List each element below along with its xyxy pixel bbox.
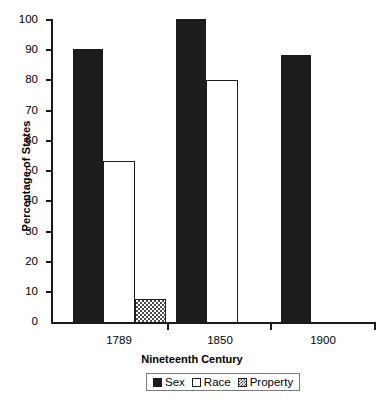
y-tick-40 [46,200,51,202]
y-tick-label-50: 50 [8,165,38,177]
y-tick-20 [46,261,51,263]
x-tick-label-1900: 1900 [283,334,363,346]
bar-race-1789 [103,161,135,323]
x-tick-end [374,324,376,330]
x-tick-1850-1900 [270,324,272,330]
legend-swatch-property-icon [238,378,247,387]
y-tick-30 [46,231,51,233]
bar-race-1850 [206,80,238,323]
y-tick-60 [46,140,51,142]
y-tick-label-100: 100 [8,14,38,26]
y-tick-80 [46,79,51,81]
y-tick-50 [46,170,51,172]
chart-legend: Sex Race Property [146,373,300,391]
y-tick-label-30: 30 [8,226,38,238]
legend-label-sex: Sex [165,376,185,388]
x-tick-1789-1850 [167,324,169,330]
y-tick-100 [46,19,51,21]
legend-swatch-race-icon [192,378,201,387]
y-tick-label-70: 70 [8,105,38,117]
y-tick-10 [46,291,51,293]
legend-label-race: Race [204,376,231,388]
y-tick-label-60: 60 [8,135,38,147]
x-axis-title: Nineteenth Century [0,353,384,365]
x-tick-label-1789: 1789 [79,334,159,346]
legend-item-race: Race [192,376,231,388]
y-tick-90 [46,49,51,51]
legend-swatch-sex-icon [153,378,162,387]
y-tick-label-20: 20 [8,256,38,268]
x-tick-label-1850: 1850 [180,334,260,346]
y-tick-label-90: 90 [8,44,38,56]
x-axis-line [51,322,376,324]
y-axis-line [51,19,53,324]
legend-label-property: Property [250,376,293,388]
legend-item-sex: Sex [153,376,185,388]
bar-sex-1789 [73,49,103,323]
y-tick-label-10: 10 [8,286,38,298]
bar-sex-1850 [176,19,206,323]
bar-sex-1900 [281,55,311,323]
y-tick-label-40: 40 [8,195,38,207]
y-tick-label-0: 0 [8,316,38,328]
bar-property-1789 [135,299,166,323]
y-tick-70 [46,110,51,112]
bar-chart: Percentage of States 100 90 80 70 60 50 … [0,0,384,403]
legend-item-property: Property [238,376,293,388]
y-tick-label-80: 80 [8,74,38,86]
